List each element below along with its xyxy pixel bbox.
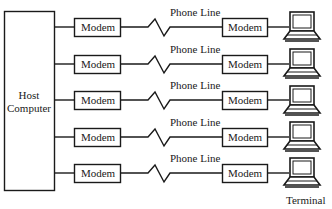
phone-line-zigzag <box>121 165 223 182</box>
terminal-laptop-icon <box>284 158 320 187</box>
left-modem-label: Modem <box>75 95 121 106</box>
terminal-laptop-icon <box>284 122 320 151</box>
phone-line-label: Phone Line <box>170 80 220 91</box>
right-modem-label: Modem <box>222 59 268 70</box>
terminal-label: Terminal <box>286 195 326 206</box>
terminal-laptop-icon <box>284 86 320 115</box>
host-label-line1: Host <box>4 89 54 102</box>
right-modem-label: Modem <box>222 95 268 106</box>
phone-line-label: Phone Line <box>170 7 220 18</box>
phone-line-zigzag <box>121 56 223 73</box>
left-modem-label: Modem <box>75 59 121 70</box>
right-modem-label: Modem <box>222 22 268 33</box>
left-modem-label: Modem <box>75 22 121 33</box>
right-modem-label: Modem <box>222 168 268 179</box>
terminal-laptop-icon <box>284 12 320 41</box>
phone-line-label: Phone Line <box>170 153 220 164</box>
right-modem-label: Modem <box>222 132 268 143</box>
phone-line-zigzag <box>121 92 223 109</box>
left-modem-label: Modem <box>75 168 121 179</box>
phone-line-zigzag <box>121 129 223 146</box>
host-label-line2: Computer <box>4 102 54 115</box>
host-computer-label: Host Computer <box>4 89 54 115</box>
terminal-laptop-icon <box>284 49 320 78</box>
phone-line-label: Phone Line <box>170 44 220 55</box>
left-modem-label: Modem <box>75 132 121 143</box>
phone-line-label: Phone Line <box>170 117 220 128</box>
phone-line-zigzag <box>121 19 223 36</box>
